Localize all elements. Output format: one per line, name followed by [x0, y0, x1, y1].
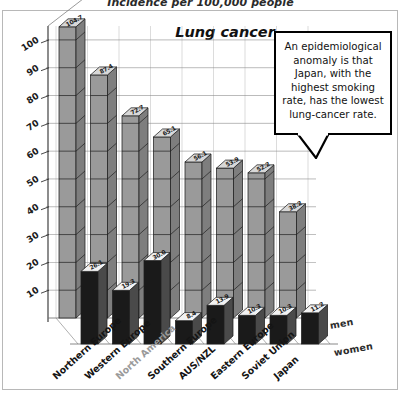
chart-page: Incidence per 100,000 people Lung cancer… [0, 0, 401, 400]
callout-tail-icon [296, 133, 330, 159]
annotation-callout: An epidemiological anomaly is that Japan… [274, 31, 392, 135]
